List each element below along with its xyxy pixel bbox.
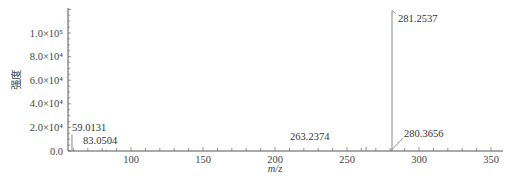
peak-label-hook [392, 11, 396, 14]
peak-label-263.2374: 263.2374 [290, 131, 330, 142]
y-tick-label: 1.0×10⁵ [30, 28, 64, 39]
peaks [72, 11, 392, 151]
x-tick-label: 350 [483, 154, 499, 165]
peak-label-59.0131: 59.0131 [72, 122, 106, 133]
x-tick-label: 100 [123, 154, 139, 165]
y-tick-label: 4.0×10⁴ [30, 98, 64, 109]
x-axis-title: m/z [268, 163, 283, 174]
peak-label-281.2537: 281.2537 [398, 13, 437, 24]
x-tick-label: 300 [411, 154, 427, 165]
x-tick-label: 250 [339, 154, 355, 165]
peak-label-83.0504: 83.0504 [83, 135, 118, 146]
y-tick-label: 6.0×10⁴ [30, 75, 64, 86]
labels: 59.013183.0504263.2374280.3656281.2537 [72, 11, 443, 151]
axes: 0.02.0×10⁴4.0×10⁴6.0×10⁴8.0×10⁴1.0×10⁵强度… [10, 8, 503, 174]
y-tick-label: 2.0×10⁴ [30, 122, 64, 133]
x-tick-label: 150 [195, 154, 211, 165]
mass-spectrum-chart: 0.02.0×10⁴4.0×10⁴6.0×10⁴8.0×10⁴1.0×10⁵强度… [0, 0, 514, 182]
y-tick-label: 0.0 [50, 146, 63, 157]
y-axis-title: 强度 [10, 69, 22, 90]
y-tick-label: 8.0×10⁴ [30, 51, 64, 62]
peak-label-280.3656: 280.3656 [404, 128, 443, 139]
peak-label-leader [391, 138, 403, 151]
